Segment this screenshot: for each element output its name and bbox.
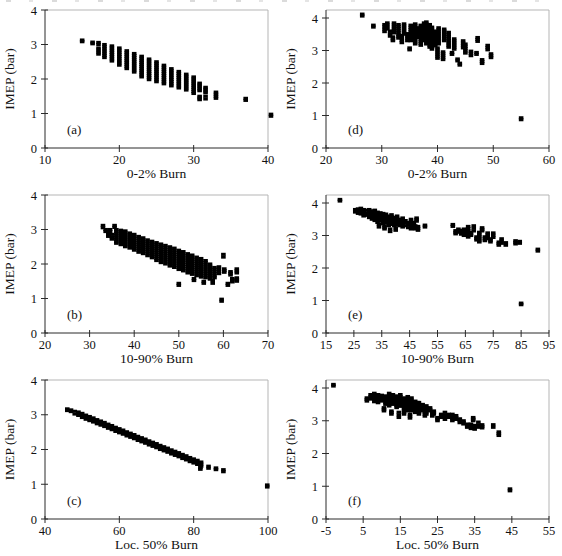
data-point bbox=[177, 268, 182, 271]
data-point bbox=[154, 80, 159, 83]
x-axis-label: 0-2% Burn bbox=[408, 166, 468, 181]
data-point bbox=[491, 426, 496, 429]
data-point bbox=[382, 409, 387, 412]
data-point bbox=[436, 42, 441, 45]
x-tick-label: 45 bbox=[506, 524, 519, 538]
data-point bbox=[475, 40, 480, 43]
x-tick-label: 35 bbox=[376, 338, 389, 352]
data-point bbox=[243, 99, 248, 102]
x-tick-label: 30 bbox=[187, 153, 200, 167]
data-point bbox=[197, 89, 202, 92]
y-axis-label: IMEP (bar) bbox=[283, 419, 298, 480]
data-point bbox=[409, 227, 414, 230]
data-point bbox=[168, 265, 173, 268]
data-point bbox=[147, 78, 152, 81]
data-point bbox=[418, 44, 423, 47]
data-point bbox=[221, 253, 226, 256]
data-point bbox=[181, 269, 186, 272]
data-point bbox=[184, 88, 189, 91]
x-tick-label: 25 bbox=[348, 338, 361, 352]
data-point bbox=[172, 266, 177, 269]
y-tick-label: 1 bbox=[31, 292, 37, 306]
data-point bbox=[117, 64, 122, 67]
data-point bbox=[96, 43, 101, 46]
data-point bbox=[400, 41, 405, 44]
data-point bbox=[114, 242, 119, 245]
data-point bbox=[162, 82, 167, 85]
data-point bbox=[110, 238, 115, 241]
data-point bbox=[145, 254, 150, 257]
data-point bbox=[159, 261, 164, 264]
data-point bbox=[441, 58, 446, 61]
data-point bbox=[536, 250, 541, 253]
x-tick-label: 100 bbox=[259, 524, 278, 538]
data-point bbox=[497, 434, 502, 437]
data-point bbox=[389, 413, 394, 416]
x-tick-label: 15 bbox=[394, 524, 407, 538]
data-point bbox=[194, 274, 199, 277]
data-point bbox=[485, 48, 490, 51]
data-point bbox=[517, 242, 522, 245]
x-tick-label: -5 bbox=[321, 524, 331, 538]
data-point bbox=[201, 282, 206, 285]
data-point bbox=[402, 413, 407, 416]
data-point bbox=[519, 303, 524, 306]
data-point bbox=[416, 229, 421, 232]
data-point bbox=[177, 284, 182, 287]
data-point bbox=[234, 271, 239, 274]
data-point bbox=[488, 240, 493, 243]
data-point bbox=[451, 225, 456, 228]
data-point bbox=[450, 53, 455, 56]
y-tick-label: 0 bbox=[31, 142, 37, 156]
data-point bbox=[141, 252, 146, 255]
y-tick-label: 2 bbox=[31, 258, 37, 272]
data-point bbox=[203, 91, 208, 94]
data-point bbox=[96, 53, 101, 56]
figure-grid: 10203040012340-2% BurnIMEP (bar)(a) 2030… bbox=[0, 0, 562, 556]
x-tick-label: 55 bbox=[543, 524, 556, 538]
data-point bbox=[163, 262, 168, 265]
y-tick-label: 4 bbox=[312, 382, 319, 396]
data-point bbox=[197, 98, 202, 101]
data-point bbox=[474, 53, 479, 56]
data-point bbox=[480, 62, 485, 65]
data-point bbox=[269, 115, 274, 118]
data-point bbox=[471, 419, 476, 422]
x-tick-label: 20 bbox=[39, 338, 52, 352]
y-tick-label: 2 bbox=[31, 443, 37, 457]
data-point bbox=[371, 26, 376, 29]
subplot-d: 2030405060012340-2% BurnIMEP (bar)(d) bbox=[281, 0, 562, 185]
x-axis-label: 10-90% Burn bbox=[120, 351, 193, 366]
y-tick-label: 0 bbox=[31, 327, 37, 341]
data-point bbox=[408, 39, 413, 42]
data-point bbox=[489, 56, 494, 59]
subplot-c: 40608010001234Loc. 50% BurnIMEP (bar)(c) bbox=[0, 370, 281, 556]
y-axis-label: IMEP (bar) bbox=[283, 233, 298, 294]
x-tick-label: 10 bbox=[39, 153, 52, 167]
data-point bbox=[210, 282, 215, 285]
data-point bbox=[203, 97, 208, 100]
x-tick-label: 65 bbox=[459, 338, 472, 352]
y-tick-label: 0 bbox=[31, 513, 37, 527]
x-tick-label: 60 bbox=[113, 524, 126, 538]
data-point bbox=[191, 92, 196, 95]
data-point bbox=[169, 84, 174, 87]
x-axis-label: 0-2% Burn bbox=[127, 166, 187, 181]
data-point bbox=[102, 56, 107, 59]
subplot-letter: (a) bbox=[67, 122, 81, 137]
data-point bbox=[393, 229, 398, 232]
data-point bbox=[139, 75, 144, 78]
y-tick-label: 1 bbox=[312, 294, 318, 308]
y-tick-label: 4 bbox=[31, 4, 38, 18]
x-axis-label: Loc. 50% Burn bbox=[115, 537, 198, 552]
data-point bbox=[338, 200, 343, 203]
y-tick-label: 0 bbox=[312, 327, 318, 341]
data-point bbox=[417, 413, 422, 416]
x-tick-label: 40 bbox=[262, 153, 275, 167]
data-point bbox=[491, 236, 496, 239]
data-point bbox=[458, 64, 463, 67]
subplot-letter: (c) bbox=[67, 493, 81, 508]
data-point bbox=[206, 467, 211, 470]
data-point bbox=[331, 384, 336, 387]
x-tick-label: 15 bbox=[320, 338, 333, 352]
